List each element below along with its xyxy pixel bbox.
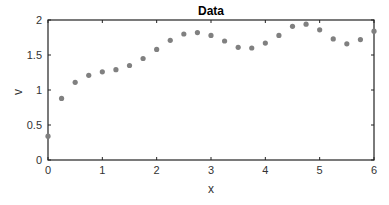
data-point	[249, 45, 254, 50]
y-tick-label: 0	[36, 154, 42, 166]
x-tick-label: 2	[154, 164, 160, 176]
data-point	[154, 47, 159, 52]
x-tick-label: 6	[371, 164, 377, 176]
y-tick-label: 1	[36, 84, 42, 96]
chart-title: Data	[198, 4, 224, 18]
y-axis-label: v	[11, 89, 25, 95]
y-tick-label: 0.5	[27, 119, 42, 131]
data-point	[73, 80, 78, 85]
data-point	[113, 67, 118, 72]
data-point	[358, 37, 363, 42]
x-tick-label: 3	[208, 164, 214, 176]
data-point	[344, 41, 349, 46]
data-point	[168, 38, 173, 43]
x-tick-label: 4	[262, 164, 268, 176]
scatter-chart: Data 012345600.511.52 x v	[0, 0, 389, 205]
data-point	[140, 56, 145, 61]
data-point	[263, 41, 268, 46]
data-point	[317, 27, 322, 32]
data-point	[86, 73, 91, 78]
data-point	[195, 30, 200, 35]
data-point	[181, 31, 186, 36]
x-tick-label: 0	[45, 164, 51, 176]
data-point	[59, 96, 64, 101]
data-point	[236, 45, 241, 50]
y-tick-label: 1.5	[27, 49, 42, 61]
data-points	[45, 22, 376, 139]
data-point	[371, 29, 376, 34]
data-point	[290, 24, 295, 29]
axes: 012345600.511.52	[27, 14, 377, 176]
x-tick-label: 5	[317, 164, 323, 176]
data-point	[303, 22, 308, 27]
data-point	[127, 63, 132, 68]
x-tick-label: 1	[99, 164, 105, 176]
x-axis-label: x	[208, 182, 214, 196]
data-point	[45, 134, 50, 139]
y-tick-label: 2	[36, 14, 42, 26]
data-point	[100, 69, 105, 74]
data-point	[208, 33, 213, 38]
data-point	[276, 33, 281, 38]
data-point	[331, 36, 336, 41]
data-point	[222, 38, 227, 43]
